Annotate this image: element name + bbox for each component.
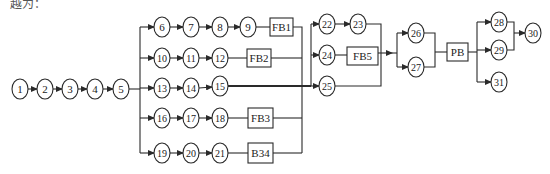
node-11: 11: [183, 48, 199, 68]
node-19: 19: [154, 143, 170, 163]
node-label: 21: [215, 148, 225, 159]
node-23: 23: [350, 14, 366, 34]
node-30: 30: [525, 23, 541, 43]
node-label: 10: [157, 53, 167, 64]
node-label: 2: [42, 83, 48, 95]
node-label: 6: [159, 21, 165, 33]
node-22: 22: [319, 14, 335, 34]
block-label: FB3: [251, 112, 270, 124]
node-label: 22: [322, 19, 332, 30]
node-21: 21: [212, 143, 228, 163]
block-fb3: FB3: [248, 108, 273, 128]
node-label: 23: [353, 19, 363, 30]
node-26: 26: [408, 23, 424, 43]
block-label: FB2: [250, 52, 269, 64]
arrow-connector: [199, 87, 212, 88]
node-label: 16: [157, 113, 167, 124]
network-diagram: FB1FB2FB3B34FB5PB 1234567891011121314151…: [0, 0, 550, 174]
node-24: 24: [319, 45, 335, 65]
node-14: 14: [183, 78, 199, 98]
node-label: 25: [322, 81, 332, 92]
node-label: 3: [67, 83, 73, 95]
block-label: B34: [251, 147, 270, 159]
node-25: 25: [319, 76, 335, 96]
node-15: 15: [212, 76, 228, 96]
node-8: 8: [212, 17, 228, 37]
block-fb1: FB1: [270, 18, 293, 36]
node-7: 7: [183, 17, 199, 37]
node-label: 20: [186, 148, 196, 159]
connector-line: [507, 22, 514, 50]
node-label: 30: [528, 28, 538, 39]
connector-line: [424, 33, 435, 67]
node-27: 27: [408, 57, 424, 77]
node-label: 26: [411, 28, 421, 39]
node-5: 5: [113, 79, 129, 99]
node-3: 3: [62, 79, 78, 99]
node-label: 9: [245, 21, 251, 33]
node-18: 18: [212, 108, 228, 128]
block-label: FB1: [272, 21, 291, 33]
node-29: 29: [491, 40, 507, 60]
node-16: 16: [154, 108, 170, 128]
block-fb2: FB2: [247, 49, 271, 67]
block-label: PB: [451, 46, 464, 58]
block-b34: B34: [248, 143, 273, 163]
block-pb: PB: [447, 43, 468, 61]
node-label: 12: [215, 53, 225, 64]
node-label: 4: [92, 83, 98, 95]
node-label: 15: [215, 81, 225, 92]
node-label: 1: [17, 83, 23, 95]
block-fb5: FB5: [347, 47, 378, 65]
node-17: 17: [183, 108, 199, 128]
node-label: 28: [494, 17, 504, 28]
connector-line: [293, 27, 302, 153]
node-4: 4: [87, 79, 103, 99]
node-12: 12: [212, 48, 228, 68]
node-label: 5: [118, 83, 124, 95]
node-label: 29: [494, 45, 504, 56]
block-label: FB5: [353, 50, 372, 62]
node-6: 6: [154, 17, 170, 37]
node-28: 28: [491, 12, 507, 32]
node-label: 18: [215, 113, 225, 124]
node-label: 13: [157, 83, 167, 94]
node-label: 11: [186, 53, 196, 64]
node-1: 1: [12, 79, 28, 99]
node-31: 31: [491, 72, 507, 92]
node-label: 19: [157, 148, 167, 159]
node-label: 24: [322, 50, 332, 61]
node-13: 13: [154, 78, 170, 98]
node-label: 14: [186, 83, 196, 94]
node-2: 2: [37, 79, 53, 99]
node-label: 7: [188, 21, 194, 33]
node-10: 10: [154, 48, 170, 68]
node-label: 8: [217, 21, 223, 33]
node-9: 9: [240, 17, 256, 37]
node-label: 27: [411, 62, 421, 73]
node-label: 31: [494, 77, 504, 88]
node-label: 17: [186, 113, 196, 124]
node-20: 20: [183, 143, 199, 163]
